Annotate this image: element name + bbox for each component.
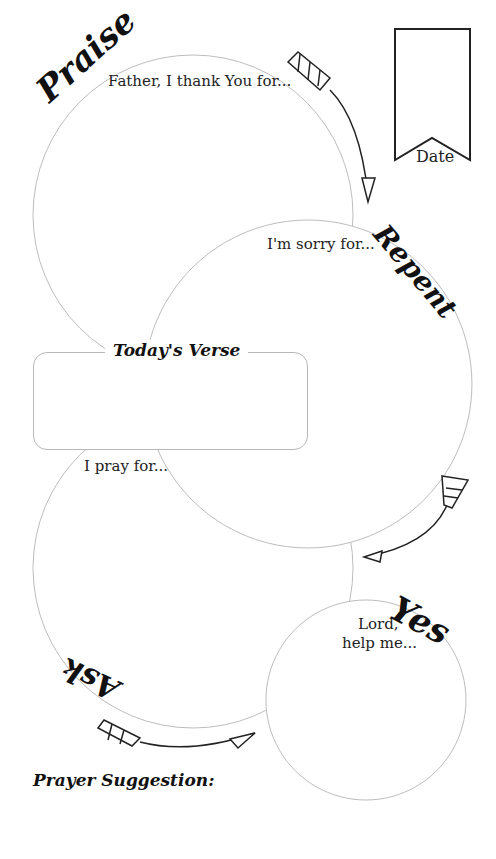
repent-prompt: I'm sorry for... (267, 235, 375, 253)
ask-prompt: I pray for... (84, 457, 168, 475)
arrow-praise-to-repent-icon (288, 52, 375, 202)
prayer-suggestion-label: Prayer Suggestion: (33, 770, 214, 790)
praise-prompt: Father, I thank You for... (108, 72, 291, 90)
todays-verse-title: Today's Verse (105, 340, 248, 360)
todays-verse-box[interactable] (33, 352, 308, 450)
arrow-ask-to-yes-icon (98, 720, 255, 748)
yes-prompt-line2: help me... (342, 634, 417, 652)
date-label: Date (416, 147, 454, 166)
date-bookmark[interactable] (395, 29, 470, 160)
